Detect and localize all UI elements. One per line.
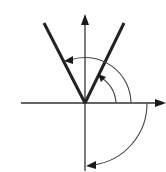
- right-ray: [85, 23, 124, 103]
- x-axis-arrowhead-icon: [155, 99, 166, 107]
- x-axis: [21, 99, 166, 107]
- y-axis-arrowhead-icon: [81, 14, 89, 25]
- left-ray: [44, 23, 85, 103]
- angle-diagram: [0, 0, 166, 172]
- clockwise-arc: [86, 103, 147, 169]
- small-ccw-arc: [98, 74, 116, 103]
- clockwise-arc-arrowhead-icon: [86, 161, 96, 169]
- y-axis: [81, 14, 89, 171]
